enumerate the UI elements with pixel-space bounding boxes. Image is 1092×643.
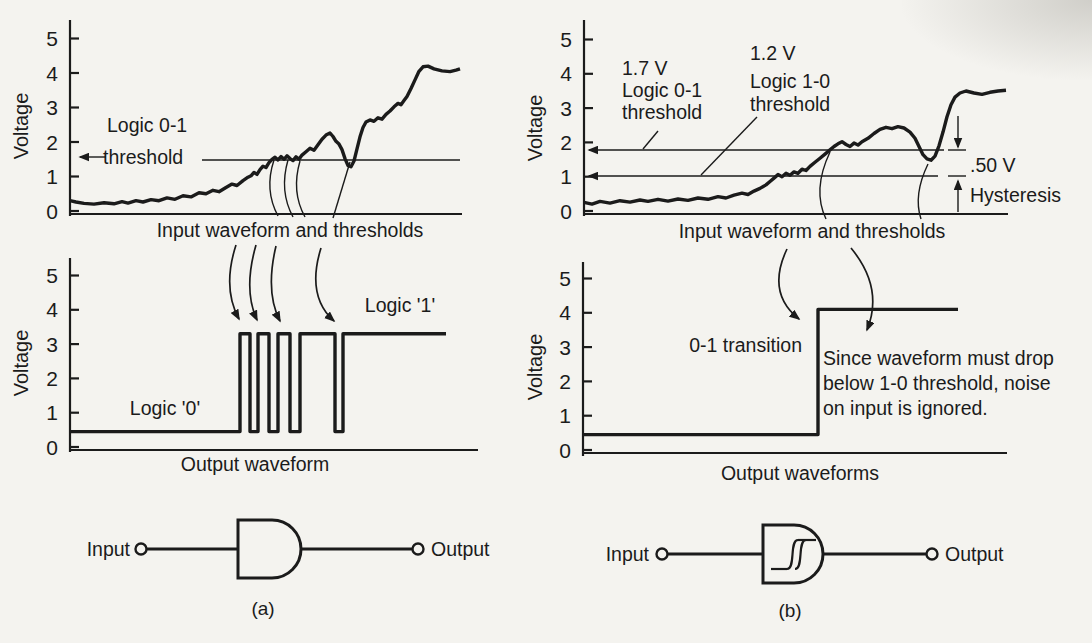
panel-a-output-plot: Voltage 012345 Logic '0' Logic '1' Outpu… — [10, 245, 478, 475]
lower-threshold-label-line2: Logic 1-0 — [750, 70, 830, 92]
threshold-label-line1: Logic 0-1 — [107, 114, 187, 136]
panel-a-input-plot: Voltage 012345 Logic 0-1 threshold Input… — [10, 20, 462, 241]
y-tick-label: 3 — [560, 97, 572, 120]
y-tick-label: 1 — [560, 165, 572, 188]
y-axis-label: Voltage — [524, 95, 546, 162]
y-tick-label: 2 — [559, 370, 571, 393]
callout-arrow — [250, 245, 257, 320]
y-tick-label: 1 — [559, 404, 571, 427]
y-ticks: 012345 — [46, 264, 79, 459]
gate-b-input-label: Input — [606, 543, 650, 565]
y-tick-label: 4 — [46, 298, 58, 321]
y-tick-label: 4 — [559, 301, 571, 324]
y-tick-label: 4 — [560, 62, 572, 85]
note-line1: Since waveform must drop — [823, 347, 1054, 369]
hysteresis-symbol-icon — [771, 540, 816, 569]
y-axis-label: Voltage — [524, 334, 546, 401]
output-terminal-icon — [927, 549, 938, 560]
y-tick-label: 5 — [559, 267, 571, 290]
y-tick-label: 3 — [559, 336, 571, 359]
note-line3: on input is ignored. — [823, 397, 988, 419]
callout-arrow — [316, 248, 334, 321]
input-plot-a-xlabel: Input waveform and thresholds — [157, 219, 424, 241]
y-tick-label: 0 — [46, 200, 58, 223]
upper-threshold-label-line1: 1.7 V — [622, 57, 668, 79]
crossing-callout-line — [820, 152, 830, 219]
callout-arrow — [851, 248, 873, 330]
hysteresis-label: Hysteresis — [970, 184, 1061, 206]
upper-threshold-label-line2: Logic 0-1 — [622, 79, 702, 101]
y-tick-label: 3 — [46, 96, 58, 119]
crossing-callout-line — [270, 160, 278, 216]
y-ticks: 012345 — [559, 267, 592, 462]
input-terminal-icon — [136, 544, 147, 555]
input-terminal-icon — [657, 549, 668, 560]
logic-0-label: Logic '0' — [130, 397, 200, 419]
callout-arrow — [271, 246, 280, 321]
hysteresis-value: .50 V — [970, 154, 1016, 176]
threshold-label-line2: threshold — [103, 146, 183, 168]
y-tick-label: 0 — [559, 439, 571, 462]
y-tick-label: 1 — [46, 165, 58, 188]
panel-a-gate: Input Output (a) — [87, 520, 490, 619]
y-ticks: 012345 — [560, 28, 593, 223]
hysteresis-figure: Voltage 012345 Logic 0-1 threshold Input… — [0, 0, 1092, 643]
y-axis-label: Voltage — [10, 330, 32, 397]
crossing-callout-line — [296, 161, 305, 217]
logic-1-label: Logic '1' — [365, 294, 435, 316]
transition-label: 0-1 transition — [689, 334, 802, 356]
gate-a-output-label: Output — [431, 538, 490, 560]
y-tick-label: 5 — [560, 28, 572, 51]
gate-b-output-label: Output — [945, 543, 1004, 565]
y-axis-label: Voltage — [10, 93, 32, 160]
crossing-callout-line — [284, 160, 293, 217]
buffer-gate-icon — [238, 520, 301, 578]
callout-arrow — [230, 245, 239, 319]
y-tick-label: 0 — [560, 200, 572, 223]
y-tick-label: 1 — [46, 401, 58, 424]
gate-a-input-label: Input — [87, 538, 131, 560]
y-tick-label: 4 — [46, 62, 58, 85]
output-plot-b-xlabel: Output waveforms — [721, 462, 879, 484]
y-tick-label: 2 — [560, 131, 572, 154]
panel-b-input-plot: Voltage 012345 1.7 V Logic 0-1 threshold… — [524, 20, 1061, 242]
y-tick-label: 5 — [46, 27, 58, 50]
y-tick-label: 2 — [46, 367, 58, 390]
y-tick-label: 3 — [46, 333, 58, 356]
y-tick-label: 2 — [46, 131, 58, 154]
output-waveform-a — [70, 334, 446, 432]
crossing-callout-line — [333, 162, 350, 218]
panel-a-caption: (a) — [251, 598, 274, 619]
panel-b-output-plot: Voltage 012345 0-1 transition Since wave… — [524, 248, 1054, 484]
output-plot-a-xlabel: Output waveform — [181, 453, 329, 475]
lower-threshold-leader — [701, 117, 757, 175]
callout-arrow — [779, 249, 799, 319]
panel-b-gate: Input Output (b) — [606, 525, 1004, 621]
y-tick-label: 0 — [46, 436, 58, 459]
y-ticks: 012345 — [46, 27, 79, 223]
lower-threshold-label-line3: threshold — [750, 93, 830, 115]
y-tick-label: 5 — [46, 264, 58, 287]
note-line2: below 1-0 threshold, noise — [823, 372, 1051, 394]
panel-b-caption: (b) — [778, 600, 801, 621]
upper-threshold-label-line3: threshold — [622, 101, 702, 123]
output-terminal-icon — [413, 544, 424, 555]
upper-threshold-leader — [643, 131, 658, 149]
crossing-callout-line — [918, 164, 928, 219]
lower-threshold-label-line1: 1.2 V — [750, 42, 796, 64]
input-plot-b-xlabel: Input waveform and thresholds — [679, 220, 946, 242]
